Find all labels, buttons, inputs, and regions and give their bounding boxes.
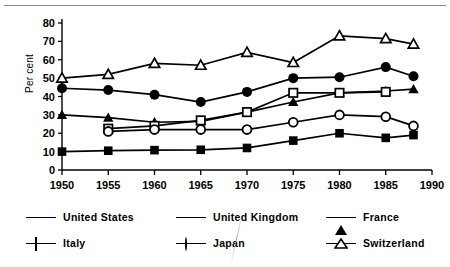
data-point — [243, 144, 252, 153]
series-line — [62, 133, 414, 151]
legend-row: United States United Kingdom France — [26, 204, 430, 230]
open-square-icon — [26, 237, 56, 249]
filled-triangle-icon — [326, 211, 356, 223]
data-point — [243, 125, 252, 134]
y-tick-label: 40 — [43, 91, 55, 103]
legend-item-united-states[interactable]: United States — [26, 211, 176, 223]
data-point — [381, 112, 390, 121]
data-point — [197, 116, 205, 124]
line-chart: 0102030405060708019501955196019651970197… — [0, 10, 450, 195]
data-point — [150, 90, 160, 100]
data-point — [243, 108, 251, 116]
open-circle-icon — [176, 237, 206, 249]
data-point — [58, 147, 67, 156]
data-point — [409, 71, 419, 81]
data-point — [196, 125, 205, 134]
legend-item-united-kingdom[interactable]: United Kingdom — [176, 211, 326, 223]
x-tick-label: 1980 — [327, 179, 351, 191]
data-point — [104, 146, 113, 155]
data-point — [289, 118, 298, 127]
legend-label: United Kingdom — [213, 211, 298, 223]
y-tick-label: 80 — [43, 17, 55, 29]
x-tick-label: 1985 — [374, 179, 398, 191]
open-triangle-icon — [326, 237, 356, 249]
y-tick-label: 20 — [43, 127, 55, 139]
figure: Per cent 0102030405060708019501955196019… — [0, 0, 450, 267]
data-point — [242, 87, 252, 97]
legend-item-france[interactable]: France — [326, 211, 430, 223]
filled-square-icon — [26, 211, 56, 223]
x-tick-label: 1975 — [281, 179, 305, 191]
data-point — [242, 47, 252, 56]
legend-row: Italy Japan Switzerland — [26, 230, 430, 256]
data-point — [57, 83, 67, 93]
data-point — [382, 88, 390, 96]
y-tick-label: 0 — [49, 164, 55, 176]
legend-label: United States — [63, 211, 134, 223]
x-tick-label: 1950 — [50, 179, 74, 191]
legend-item-italy[interactable]: Italy — [26, 237, 176, 249]
data-point — [104, 127, 113, 136]
legend-label: Italy — [63, 237, 86, 249]
data-point — [381, 134, 390, 143]
data-point — [196, 145, 205, 154]
x-tick-label: 1960 — [142, 179, 166, 191]
y-tick-label: 70 — [43, 35, 55, 47]
data-point — [288, 73, 298, 83]
legend-label: Switzerland — [363, 237, 425, 249]
data-point — [335, 89, 343, 97]
data-point — [335, 129, 344, 138]
y-tick-label: 30 — [43, 109, 55, 121]
data-point — [289, 136, 298, 145]
y-tick-label: 50 — [43, 72, 55, 84]
y-tick-label: 10 — [43, 146, 55, 158]
data-point — [409, 131, 418, 140]
filled-circle-icon — [176, 211, 206, 223]
plot-area: Per cent 0102030405060708019501955196019… — [0, 10, 450, 195]
x-tick-label: 1970 — [235, 179, 259, 191]
legend: United States United Kingdom France I — [26, 204, 430, 260]
legend-item-switzerland[interactable]: Switzerland — [326, 237, 430, 249]
legend-label: Japan — [213, 237, 245, 249]
y-tick-label: 60 — [43, 54, 55, 66]
data-point — [103, 85, 113, 95]
x-tick-label: 1965 — [189, 179, 213, 191]
data-point — [381, 62, 391, 72]
top-rule — [4, 5, 446, 6]
data-point — [289, 89, 297, 97]
x-tick-label: 1955 — [96, 179, 120, 191]
legend-label: France — [363, 211, 399, 223]
series-united-kingdom — [57, 62, 419, 107]
data-point — [196, 97, 206, 107]
x-tick-label: 1990 — [420, 179, 444, 191]
data-point — [150, 146, 159, 155]
legend-item-japan[interactable]: Japan — [176, 237, 326, 249]
data-point — [409, 122, 418, 131]
series-switzerland — [57, 31, 419, 82]
data-point — [335, 110, 344, 119]
data-point — [150, 125, 159, 134]
data-point — [335, 72, 345, 82]
